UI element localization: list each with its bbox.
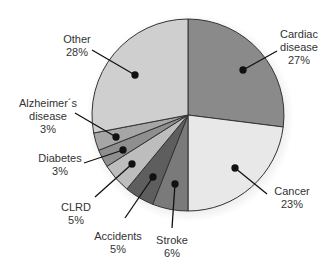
- label-alzheimers-disease: Alzheimer´s disease 3%: [19, 97, 77, 136]
- label-name: Other: [63, 33, 91, 46]
- label-percent: 5%: [61, 214, 91, 227]
- label-name: CLRD: [61, 201, 91, 214]
- label-cardiac-disease: Cardiac disease 27%: [280, 28, 318, 67]
- label-percent: 5%: [94, 243, 142, 256]
- label-name: Diabetes: [38, 152, 81, 165]
- label-percent: 23%: [274, 198, 309, 211]
- slice-cardiac-disease: [188, 19, 284, 127]
- label-percent: 3%: [38, 165, 81, 178]
- label-percent: 27%: [280, 54, 318, 67]
- label-percent: 6%: [156, 247, 188, 260]
- label-name: Stroke: [156, 234, 188, 247]
- label-name: Accidents: [94, 230, 142, 243]
- slice-cancer: [188, 115, 283, 211]
- slice-other: [92, 19, 188, 133]
- label-name: Cancer: [274, 185, 309, 198]
- label-cancer: Cancer 23%: [274, 185, 309, 211]
- label-name: Cardiac: [280, 28, 318, 41]
- label-stroke: Stroke 6%: [156, 234, 188, 260]
- label-name-2: disease: [19, 110, 77, 123]
- label-name: Alzheimer´s: [19, 97, 77, 110]
- label-clrd: CLRD 5%: [61, 201, 91, 227]
- label-percent: 28%: [63, 46, 91, 59]
- label-diabetes: Diabetes 3%: [38, 152, 81, 178]
- label-name-2: disease: [280, 41, 318, 54]
- label-accidents: Accidents 5%: [94, 230, 142, 256]
- label-other: Other 28%: [63, 33, 91, 59]
- label-percent: 3%: [19, 123, 77, 136]
